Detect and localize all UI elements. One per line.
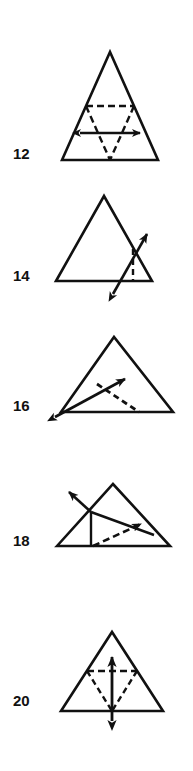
figure-20-label: 20: [13, 693, 30, 708]
figure-14-double-arrow: [113, 234, 147, 294]
figure-plate: 12 14: [0, 0, 193, 771]
figure-14-outer-triangle: [56, 196, 152, 281]
figure-16-dashed-cevian: [97, 384, 139, 412]
figure-12-row: 12: [0, 0, 193, 175]
figure-16-label: 16: [13, 398, 30, 413]
figure-20-dashed-right: [112, 671, 137, 711]
figure-20-dashed-left: [87, 671, 112, 711]
figure-16-double-arrow: [55, 379, 125, 417]
figure-20-outer-triangle: [61, 632, 163, 711]
figure-18-cross-segment: [91, 512, 154, 535]
figure-16-outer-triangle: [61, 337, 173, 412]
figure-18-dashed-arrow: [93, 524, 141, 546]
figure-18-upleft-arrow: [69, 492, 91, 512]
figure-14-label: 14: [13, 268, 30, 283]
figure-12-drawing: [0, 0, 193, 175]
figure-18-outer-triangle: [57, 484, 170, 546]
figure-18-label: 18: [13, 533, 30, 548]
